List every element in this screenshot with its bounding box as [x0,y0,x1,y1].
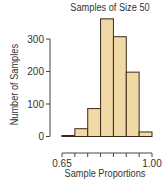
y-tick-label: 0 [38,131,44,142]
histogram-bar [75,129,88,137]
x-tick-label: 0.65 [52,158,72,169]
histogram-plot: 01002003000.651.00 [0,0,166,184]
histogram-bar [62,136,75,137]
y-tick-label: 200 [27,66,44,77]
x-tick-label: 1.00 [142,158,162,169]
histogram-bar [113,37,126,137]
histogram-bar [101,19,114,137]
histogram-bar [139,132,152,137]
y-tick-label: 300 [27,34,44,45]
histogram-bar [88,109,101,137]
histogram-bar [126,72,139,136]
y-tick-label: 100 [27,99,44,110]
